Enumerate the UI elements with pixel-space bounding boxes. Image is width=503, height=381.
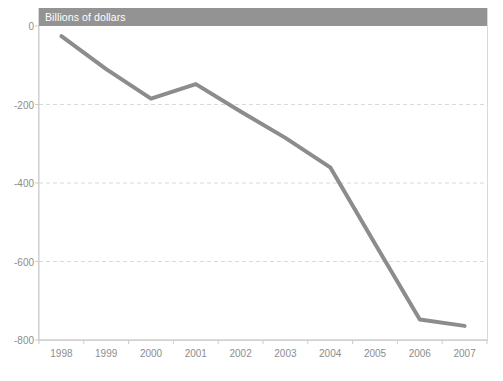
y-tick-label: 0	[4, 21, 34, 32]
x-tick-label: 2001	[185, 348, 207, 359]
x-tick-label: 1999	[95, 348, 117, 359]
y-tick-label: -800	[4, 335, 34, 346]
plot-area-frame	[38, 8, 488, 341]
chart-figure: Billions of dollars 0-200-400-600-800 19…	[0, 0, 503, 381]
y-tick-label: -400	[4, 178, 34, 189]
x-tick-label: 2004	[319, 348, 341, 359]
x-tick-label: 2002	[229, 348, 251, 359]
x-tick-label: 2007	[453, 348, 475, 359]
y-tick-label: -600	[4, 256, 34, 267]
x-tick-label: 2003	[274, 348, 296, 359]
x-tick-label: 2005	[364, 348, 386, 359]
x-tick-label: 2000	[140, 348, 162, 359]
y-axis-tick-labels: 0-200-400-600-800	[0, 0, 34, 381]
x-tick-label: 2006	[409, 348, 431, 359]
y-tick-label: -200	[4, 99, 34, 110]
x-tick-label: 1998	[50, 348, 72, 359]
